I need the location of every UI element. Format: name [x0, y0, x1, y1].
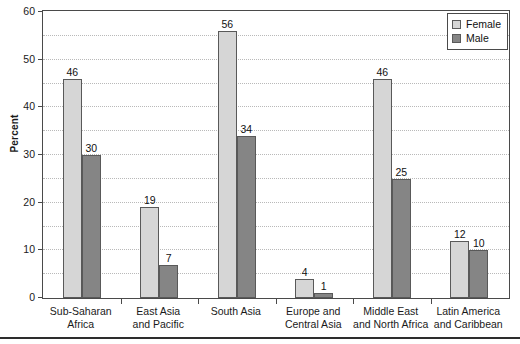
bar-value-label: 25 — [395, 167, 407, 178]
y-axis-tick-label: 10 — [5, 244, 35, 254]
bar-male: 10 — [469, 250, 488, 298]
category-label-line: Latin America — [430, 305, 508, 318]
bar-female: 19 — [140, 207, 159, 298]
x-axis-category-label: Europe andCentral Asia — [275, 305, 353, 331]
y-axis-tick — [38, 59, 43, 60]
bar-male: 34 — [237, 136, 256, 298]
bar-value-label: 19 — [144, 195, 156, 206]
x-axis-category-label: Middle Eastand North Africa — [352, 305, 430, 331]
legend: Female Male — [447, 13, 508, 50]
x-axis-tick — [121, 298, 122, 304]
x-axis-tick — [431, 298, 432, 304]
x-axis-category-label: Sub-SaharanAfrica — [42, 305, 120, 331]
x-axis-tick — [276, 298, 277, 304]
legend-label-male: Male — [466, 33, 489, 44]
category-label-line: Sub-Saharan — [42, 305, 120, 318]
bar-female: 46 — [373, 79, 392, 298]
bar-value-label: 7 — [166, 253, 172, 264]
x-axis-category-label: Latin Americaand Caribbean — [430, 305, 508, 331]
bar-male: 1 — [314, 293, 333, 298]
legend-swatch-male-icon — [452, 34, 461, 43]
gridline — [43, 178, 509, 179]
gridline — [43, 226, 509, 227]
bar-female: 4 — [295, 279, 314, 298]
bar-value-label: 46 — [66, 67, 78, 78]
bar-male: 7 — [159, 265, 178, 298]
category-label-line: Central Asia — [275, 318, 353, 331]
gridline — [43, 130, 509, 131]
x-axis-category-label: East Asiaand Pacific — [120, 305, 198, 331]
y-axis-tick — [38, 249, 43, 250]
gridline — [43, 273, 509, 274]
legend-item-male[interactable]: Male — [452, 32, 501, 45]
y-axis-tick — [38, 106, 43, 107]
category-label-line: and North Africa — [352, 318, 430, 331]
legend-label-female: Female — [466, 19, 501, 30]
category-label-line: and Pacific — [120, 318, 198, 331]
bar-value-label: 34 — [240, 124, 252, 135]
gridline — [43, 154, 509, 155]
category-label-line: Africa — [42, 318, 120, 331]
legend-swatch-female-icon — [452, 20, 461, 29]
bar-male: 25 — [392, 179, 411, 298]
plot-inner: 0102030405060463019756344146251210 — [43, 11, 509, 298]
bar-value-label: 46 — [376, 67, 388, 78]
bar-female: 56 — [218, 31, 237, 298]
gridline — [43, 249, 509, 250]
bottom-divider — [0, 337, 520, 339]
x-axis-tick — [353, 298, 354, 304]
y-axis-tick-label: 40 — [5, 101, 35, 111]
y-axis-tick-label: 50 — [5, 54, 35, 64]
y-axis-tick-label: 60 — [5, 6, 35, 16]
gridline — [43, 106, 509, 107]
x-axis-tick — [198, 298, 199, 304]
plot-area: 0102030405060463019756344146251210 — [42, 10, 510, 299]
bar-value-label: 4 — [302, 267, 308, 278]
gridline — [43, 202, 509, 203]
y-axis-tick — [38, 11, 43, 12]
bar-male: 30 — [82, 155, 101, 298]
y-axis-tick-label: 20 — [5, 197, 35, 207]
y-axis-tick — [38, 202, 43, 203]
gridline — [43, 35, 509, 36]
bar-chart: Percent 01020304050604630197563441462512… — [0, 0, 520, 344]
bar-female: 12 — [450, 241, 469, 298]
y-axis-tick-label: 0 — [5, 292, 35, 302]
bar-value-label: 12 — [454, 229, 466, 240]
bar-value-label: 56 — [221, 19, 233, 30]
category-label-line: Middle East — [352, 305, 430, 318]
y-axis-tick — [38, 297, 43, 298]
gridline — [43, 59, 509, 60]
category-label-line: South Asia — [197, 305, 275, 318]
bar-value-label: 1 — [321, 281, 327, 292]
category-label-line: Europe and — [275, 305, 353, 318]
legend-item-female[interactable]: Female — [452, 18, 501, 31]
gridline — [43, 83, 509, 84]
category-label-line: and Caribbean — [430, 318, 508, 331]
bar-value-label: 30 — [85, 143, 97, 154]
y-axis-tick — [38, 154, 43, 155]
bar-value-label: 10 — [473, 238, 485, 249]
bar-female: 46 — [63, 79, 82, 298]
y-axis-tick-label: 30 — [5, 149, 35, 159]
x-axis-category-label: South Asia — [197, 305, 275, 318]
category-label-line: East Asia — [120, 305, 198, 318]
